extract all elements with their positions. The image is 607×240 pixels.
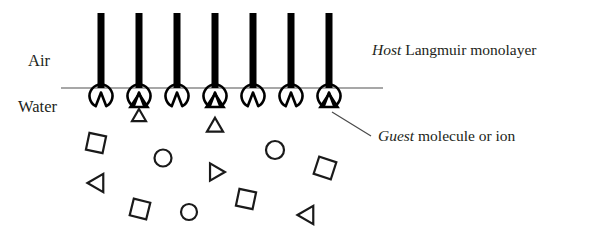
water-phase-label: Water [18, 97, 57, 116]
guest-triangle [210, 163, 225, 180]
host-tail [250, 13, 257, 88]
host-monolayer-caption: Host Langmuir monolayer [371, 41, 537, 58]
host-monolayer-group [90, 13, 341, 107]
host-molecule [204, 13, 227, 107]
host-caption-emphasis: Host [371, 41, 402, 58]
guest-molecule-caption: Guest molecule or ion [378, 127, 516, 144]
host-tail [136, 13, 143, 88]
guest-circle [266, 141, 284, 159]
guest-triangle [297, 206, 313, 224]
air-phase-label: Air [28, 51, 51, 70]
guest-leader-line [332, 112, 371, 136]
diagram-canvas: Air Water Host Langmuir monolayer Guest … [0, 0, 607, 240]
guest-triangle [87, 174, 103, 192]
bound-guest-triangle [130, 94, 147, 107]
host-tail [212, 13, 219, 88]
host-tail [174, 13, 181, 88]
host-caption-rest: Langmuir monolayer [401, 41, 537, 58]
guest-circle [155, 150, 172, 167]
guest-square [314, 157, 337, 180]
bound-guest-triangle [320, 94, 337, 107]
guest-square [236, 189, 256, 209]
host-tail [288, 13, 295, 88]
guest-triangle [132, 109, 146, 121]
host-tail [98, 13, 105, 88]
host-molecule [318, 13, 341, 107]
guest-molecules-group [86, 109, 336, 224]
guest-caption-emphasis: Guest [378, 127, 415, 144]
bound-guest-triangle [206, 94, 223, 107]
host-molecule [242, 13, 265, 106]
guest-caption-rest: molecule or ion [414, 127, 515, 144]
guest-square [86, 133, 106, 153]
guest-square [130, 199, 151, 220]
host-molecule [128, 13, 151, 107]
host-molecule [90, 13, 113, 106]
host-molecule [280, 13, 303, 106]
host-tail [326, 13, 333, 88]
guest-triangle [207, 118, 223, 132]
host-molecule [165, 13, 188, 106]
guest-circle [181, 204, 197, 220]
host-guest-diagram: Air Water Host Langmuir monolayer Guest … [0, 0, 607, 240]
